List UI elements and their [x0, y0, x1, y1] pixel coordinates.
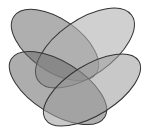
venn-diagram — [0, 0, 145, 131]
